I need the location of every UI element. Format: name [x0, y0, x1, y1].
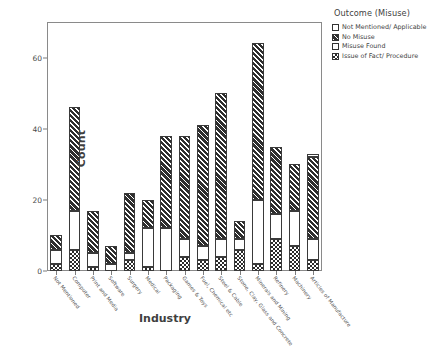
bar	[160, 136, 171, 271]
bar	[270, 147, 281, 272]
y-tick-mark	[43, 128, 47, 129]
bar-segment	[307, 239, 318, 260]
legend-item[interactable]: Issue of Fact/ Procedure	[332, 53, 438, 60]
bar-segment	[270, 147, 281, 215]
legend-swatch-icon	[332, 43, 339, 50]
y-tick-label: 60	[7, 53, 47, 62]
y-tick-label: 20	[7, 195, 47, 204]
legend-swatch-icon	[332, 34, 339, 41]
bar	[179, 136, 190, 271]
legend: Outcome (Misuse) Not Mentioned/ Applicab…	[332, 8, 438, 62]
bar-segment	[215, 257, 226, 271]
bar-segment	[270, 214, 281, 239]
bar-segment	[179, 136, 190, 239]
plot-area: 0204060 Not MentionedComputerPrint and M…	[47, 22, 322, 271]
bar-segment	[289, 164, 300, 210]
bar-segment	[197, 246, 208, 260]
x-axis-title: Industry	[0, 312, 330, 325]
bar-segment	[179, 239, 190, 257]
y-tick-mark	[43, 57, 47, 58]
bar-segment	[307, 260, 318, 271]
bar-segment	[307, 157, 318, 239]
bar-segment	[270, 239, 281, 271]
bar-segment	[105, 264, 116, 271]
legend-swatch-icon	[332, 24, 339, 31]
bar-segment	[289, 211, 300, 247]
bar-segment	[105, 246, 116, 264]
bar	[105, 246, 116, 271]
bar	[307, 154, 318, 271]
bar-segment	[69, 211, 80, 250]
bar-segment	[197, 125, 208, 246]
x-tick-label: Medical	[144, 275, 161, 295]
bar	[234, 221, 245, 271]
bar-segment	[50, 264, 61, 271]
spss-stacked-bar-chart: 0204060 Not MentionedComputerPrint and M…	[0, 0, 438, 364]
legend-item[interactable]: No Misuse	[332, 34, 438, 41]
y-tick-label: 40	[7, 124, 47, 133]
bar-segment	[252, 200, 263, 264]
bar	[197, 125, 208, 271]
y-tick-mark	[43, 271, 47, 272]
bar-segment	[234, 250, 245, 271]
x-tick-label: Refinery	[272, 275, 290, 296]
x-tick-label: Software	[107, 275, 126, 297]
bar-segment	[160, 228, 171, 271]
bar-segment	[124, 193, 135, 253]
bar	[87, 211, 98, 271]
bar-segment	[179, 257, 190, 271]
bar	[289, 164, 300, 271]
bar-segment	[234, 221, 245, 239]
x-tick-label: Surgery	[126, 275, 144, 295]
bar	[252, 43, 263, 271]
legend-swatch-icon	[332, 53, 339, 60]
legend-item[interactable]: Not Mentioned/ Applicable	[332, 24, 438, 31]
bar-segment	[252, 264, 263, 271]
legend-title: Outcome (Misuse)	[334, 8, 438, 18]
legend-items: Not Mentioned/ ApplicableNo MisuseMisuse…	[332, 24, 438, 60]
y-tick-mark	[43, 199, 47, 200]
bar-segment	[69, 250, 80, 271]
bar-segment	[87, 253, 98, 267]
bar-segment	[215, 239, 226, 257]
bar-segment	[234, 239, 245, 250]
bar-segment	[142, 200, 153, 228]
bar-segment	[87, 211, 98, 254]
legend-label: Misuse Found	[342, 43, 385, 49]
bar	[215, 93, 226, 271]
bar-segment	[142, 228, 153, 267]
y-axis-title: Count	[75, 109, 88, 189]
bar	[142, 200, 153, 271]
bar-segment	[215, 93, 226, 239]
bar-segment	[160, 136, 171, 228]
legend-item[interactable]: Misuse Found	[332, 43, 438, 50]
bar	[50, 235, 61, 271]
bar-segment	[50, 235, 61, 249]
y-tick-label: 0	[7, 267, 47, 276]
legend-label: Not Mentioned/ Applicable	[342, 24, 426, 30]
bar-segment	[289, 246, 300, 271]
bar-segment	[50, 250, 61, 264]
legend-label: Issue of Fact/ Procedure	[342, 53, 418, 59]
bar	[124, 193, 135, 271]
bar-segment	[124, 260, 135, 271]
bar-segment	[252, 43, 263, 200]
bar-segment	[307, 154, 318, 158]
bar-segment	[124, 253, 135, 260]
bar-segment	[197, 260, 208, 271]
legend-label: No Misuse	[342, 34, 375, 40]
